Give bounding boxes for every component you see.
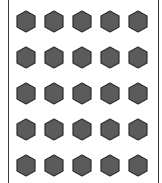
hex-tile-r0-c1[interactable]: [44, 10, 64, 33]
hexagon-icon: [100, 118, 120, 141]
hexagon-icon: [100, 10, 120, 33]
hex-tile-r0-c2[interactable]: [72, 10, 92, 33]
hex-tile-r2-c1[interactable]: [44, 82, 64, 105]
hexagon-icon: [100, 82, 120, 105]
hexagon-icon: [128, 154, 148, 177]
hex-tile-r2-c3[interactable]: [100, 82, 120, 105]
hexagon-icon: [16, 46, 36, 69]
hex-tile-r3-c1[interactable]: [44, 118, 64, 141]
hex-tile-r3-c4[interactable]: [128, 118, 148, 141]
hexagon-icon: [44, 154, 64, 177]
hex-tile-r2-c2[interactable]: [72, 82, 92, 105]
hex-tile-r1-c3[interactable]: [100, 46, 120, 69]
hex-tile-r3-c0[interactable]: [16, 118, 36, 141]
hexagon-icon: [128, 118, 148, 141]
hex-tile-r4-c1[interactable]: [44, 154, 64, 177]
hexagon-icon: [72, 10, 92, 33]
hex-tile-r1-c4[interactable]: [128, 46, 148, 69]
hexagon-icon: [44, 118, 64, 141]
hex-tile-r1-c2[interactable]: [72, 46, 92, 69]
hexagon-icon: [72, 154, 92, 177]
hexagon-icon: [16, 118, 36, 141]
hex-tile-r1-c0[interactable]: [16, 46, 36, 69]
hex-tile-r3-c3[interactable]: [100, 118, 120, 141]
hex-tile-r0-c3[interactable]: [100, 10, 120, 33]
hex-tile-r2-c0[interactable]: [16, 82, 36, 105]
hexagon-icon: [72, 46, 92, 69]
hexagon-icon: [44, 10, 64, 33]
hexagon-icon: [72, 118, 92, 141]
hexagon-icon: [16, 10, 36, 33]
hexagon-icon: [128, 46, 148, 69]
hexagon-icon: [72, 82, 92, 105]
hex-tile-r0-c4[interactable]: [128, 10, 148, 33]
hexagon-icon: [100, 154, 120, 177]
hexagon-icon: [100, 46, 120, 69]
hexagon-icon: [128, 82, 148, 105]
game-board: [0, 0, 162, 183]
hex-tile-r2-c4[interactable]: [128, 82, 148, 105]
hexagon-icon: [128, 10, 148, 33]
hex-tile-r4-c3[interactable]: [100, 154, 120, 177]
hexagon-icon: [44, 82, 64, 105]
hexagon-icon: [44, 46, 64, 69]
hex-tile-r1-c1[interactable]: [44, 46, 64, 69]
hexagon-icon: [16, 154, 36, 177]
hex-tile-grid: [0, 0, 162, 183]
hex-tile-r3-c2[interactable]: [72, 118, 92, 141]
hex-tile-r4-c2[interactable]: [72, 154, 92, 177]
hex-tile-r4-c0[interactable]: [16, 154, 36, 177]
hex-tile-r4-c4[interactable]: [128, 154, 148, 177]
hex-tile-r0-c0[interactable]: [16, 10, 36, 33]
hexagon-icon: [16, 82, 36, 105]
